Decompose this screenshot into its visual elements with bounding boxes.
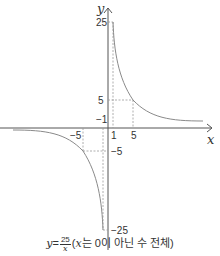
tick-y-25: 25 <box>96 18 107 28</box>
hyperbola-plot <box>0 0 220 256</box>
caption-denominator: x <box>60 245 71 253</box>
tick-x-neg5: −5 <box>70 131 81 141</box>
tick-y-5: 5 <box>98 96 104 106</box>
tick-x-5: 5 <box>131 131 137 141</box>
x-axis-label: x <box>207 133 214 146</box>
tick-y-neg5: −5 <box>111 147 122 157</box>
curve-negative-branch <box>13 130 103 230</box>
caption-eq: = <box>52 237 58 249</box>
guides-positive <box>108 22 133 128</box>
caption-text: 는 0이 아닌 수 전체) <box>82 237 174 249</box>
y-axis-label: y <box>97 2 104 15</box>
curve-positive-branch <box>113 22 203 121</box>
tick-y-neg1: −1 <box>96 115 107 125</box>
chart-caption: y=25x(x는 0이 아닌 수 전체) <box>0 234 220 253</box>
tick-x-1: 1 <box>111 131 117 141</box>
caption-fraction: 25x <box>60 236 71 253</box>
